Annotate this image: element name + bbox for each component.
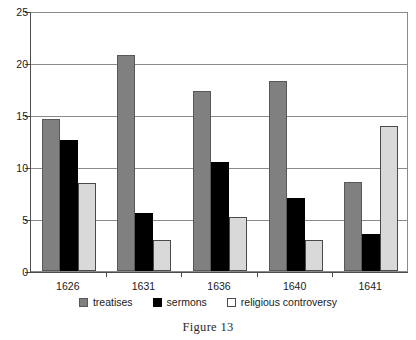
- figure-13: 0510152025 16261631163616401641 treatise…: [0, 0, 416, 340]
- bar-religious-controversy-1631: [153, 240, 171, 271]
- bar-treatises-1631: [117, 55, 135, 271]
- x-axis-line: [30, 272, 408, 273]
- plot-area: [30, 12, 408, 272]
- legend-swatch-religious-controversy-icon: [227, 298, 236, 307]
- bar-treatises-1641: [344, 182, 362, 271]
- legend-entry-sermons[interactable]: sermons: [153, 297, 207, 308]
- legend-label-treatises: treatises: [93, 297, 133, 308]
- bar-religious-controversy-1636: [229, 217, 247, 271]
- gridline-20: [31, 64, 407, 65]
- y-tick-label-15: 15: [2, 111, 28, 121]
- legend-label-sermons: sermons: [167, 297, 207, 308]
- y-tick-label-10: 10: [2, 163, 28, 173]
- x-tick-label-1641: 1641: [340, 280, 400, 292]
- bar-religious-controversy-1626: [78, 183, 96, 271]
- bar-religious-controversy-1640: [305, 240, 323, 271]
- x-tick-label-1636: 1636: [189, 280, 249, 292]
- bar-sermons-1640: [287, 198, 305, 271]
- chart-legend: treatisessermonsreligious controversy: [0, 297, 416, 308]
- legend-entry-treatises[interactable]: treatises: [79, 297, 133, 308]
- x-tick-label-1640: 1640: [265, 280, 325, 292]
- bar-sermons-1631: [135, 213, 153, 271]
- x-tick-label-1631: 1631: [113, 280, 173, 292]
- legend-entry-religious-controversy[interactable]: religious controversy: [227, 297, 337, 308]
- y-tick-label-20: 20: [2, 59, 28, 69]
- bar-religious-controversy-1641: [380, 126, 398, 271]
- bar-sermons-1641: [362, 234, 380, 271]
- x-tick-mark-4: [332, 272, 333, 277]
- legend-swatch-treatises-icon: [79, 298, 88, 307]
- gridline-15: [31, 116, 407, 117]
- x-tick-mark-2: [181, 272, 182, 277]
- x-tick-label-1626: 1626: [38, 280, 98, 292]
- x-tick-mark-3: [257, 272, 258, 277]
- bar-treatises-1626: [42, 119, 60, 271]
- x-tick-mark-1: [106, 272, 107, 277]
- y-tick-label-25: 25: [2, 7, 28, 17]
- legend-label-religious-controversy: religious controversy: [241, 297, 337, 308]
- legend-swatch-sermons-icon: [153, 298, 162, 307]
- y-axis-line: [30, 12, 31, 273]
- gridline-25: [31, 12, 407, 13]
- bar-treatises-1640: [269, 81, 287, 271]
- bar-treatises-1636: [193, 91, 211, 271]
- bar-sermons-1626: [60, 140, 78, 271]
- bar-sermons-1636: [211, 162, 229, 271]
- figure-caption: Figure 13: [0, 320, 416, 334]
- y-tick-label-5: 5: [2, 215, 28, 225]
- y-tick-label-0: 0: [2, 267, 28, 277]
